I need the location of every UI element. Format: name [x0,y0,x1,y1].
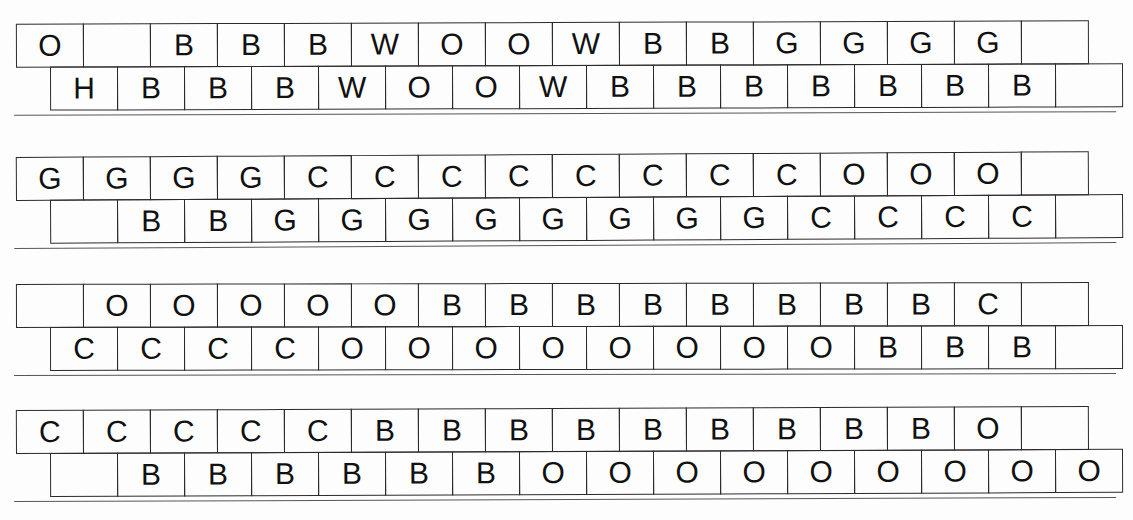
grid-cell-letter: O [519,451,587,495]
grid-cell-letter: G [251,198,319,242]
letter-band: GGGGCCCCCCCCOOO BBGGGGGGGGCCCC [0,154,1133,246]
grid-cell-letter: G [954,21,1022,65]
grid-cell-letter: B [318,452,386,496]
grid-cell-letter: O [83,284,151,328]
grid-cell-letter: G [83,156,151,200]
grid-cell-letter: O [988,449,1056,493]
grid-cell-letter: C [921,195,989,239]
grid-cell-letter: B [753,283,821,327]
grid-cell-letter: O [787,325,855,369]
grid-cell-letter: B [552,408,620,452]
grid-cell-empty [50,199,118,243]
grid-cell-letter: W [318,66,386,110]
grid-cell-empty [50,453,118,497]
grid-cell-letter: C [251,326,319,370]
grid-cell-letter: O [217,283,285,327]
grid-cell-letter: B [921,325,989,369]
grid-cell-letter: B [184,66,252,110]
grid-cell-letter: B [686,21,754,65]
band-bottom-row: BBGGGGGGGGCCCC [50,194,1122,244]
band-baseline [14,242,1116,249]
band-top-row: CCCCCBBBBBBBBBO [16,406,1088,454]
grid-cell-letter: B [753,407,821,451]
grid-cell-letter: B [988,325,1056,369]
grid-cell-empty [1055,325,1123,369]
grid-cell-letter: B [251,452,319,496]
grid-cell-letter: O [519,326,587,370]
grid-cell-letter: O [16,24,84,68]
grid-cell-letter: B [586,65,654,109]
grid-cell-letter: C [351,155,419,199]
grid-cell-letter: C [854,195,922,239]
grid-cell-letter: B [150,23,218,67]
grid-cell-letter: C [619,153,687,197]
grid-cell-empty [1055,63,1123,107]
grid-cell-letter: C [686,153,754,197]
band-top-row: GGGGCCCCCCCCOOO [16,151,1088,201]
grid-cell-letter: O [351,283,419,327]
grid-cell-letter: B [117,452,185,496]
grid-cell-empty [1021,282,1089,326]
grid-cell-letter: B [619,408,687,452]
band-top-row: OOOOOBBBBBBBBC [16,282,1088,328]
grid-cell-letter: O [720,326,788,370]
grid-cell-letter: B [854,64,922,108]
grid-cell-letter: B [619,22,687,66]
grid-cell-letter: B [686,283,754,327]
grid-cell-letter: C [184,327,252,371]
grid-cell-letter: W [552,22,620,66]
grid-cell-letter: B [184,199,252,243]
grid-cell-letter: B [619,283,687,327]
grid-cell-letter: O [954,406,1022,450]
letter-band: CCCCCBBBBBBBBBO BBBBBBOOOOOOOOO [0,408,1133,500]
grid-cell-letter: B [385,451,453,495]
grid-cell-letter: W [351,22,419,66]
grid-cell-letter: B [820,282,888,326]
grid-cell-letter: B [284,23,352,67]
grid-cell-letter: B [117,199,185,243]
scanned-chart-sheet: OBBBWOOWBBGGGG HBBBWOOWBBBBBBB GGGGCCCCC… [0,0,1133,520]
grid-cell-letter: G [519,197,587,241]
grid-cell-letter: O [452,326,520,370]
band-top-row: OBBBWOOWBBGGGG [16,20,1088,67]
grid-cell-letter: G [217,155,285,199]
grid-cell-letter: C [83,410,151,454]
grid-cell-letter: O [586,451,654,495]
grid-cell-letter: C [284,409,352,453]
letter-band: OBBBWOOWBBGGGG HBBBWOOWBBBBBBB [0,22,1133,114]
grid-cell-letter: G [16,157,84,201]
grid-cell-letter: O [418,22,486,66]
grid-cell-letter: O [385,65,453,109]
grid-cell-letter: O [485,22,553,66]
grid-cell-letter: B [418,283,486,327]
grid-cell-letter: B [452,451,520,495]
grid-cell-letter: O [1055,449,1123,493]
grid-cell-letter: C [16,410,84,454]
grid-cell-letter: H [50,66,118,110]
grid-cell-letter: G [720,196,788,240]
grid-cell-letter: O [452,65,520,109]
grid-cell-letter: C [485,154,553,198]
grid-cell-letter: O [921,449,989,493]
grid-cell-letter: O [318,326,386,370]
grid-cell-letter: B [887,407,955,451]
grid-cell-letter: C [150,409,218,453]
band-bottom-row: CCCCOOOOOOOOBBB [50,325,1122,371]
grid-cell-letter: B [686,407,754,451]
grid-cell-letter: G [753,21,821,65]
grid-cell-letter: G [385,198,453,242]
grid-cell-letter: O [586,326,654,370]
grid-cell-letter: G [653,196,721,240]
grid-cell-letter: G [887,21,955,65]
grid-cell-letter: B [787,64,855,108]
grid-cell-letter: O [954,152,1022,196]
grid-cell-letter: C [50,327,118,371]
grid-cell-letter: C [787,195,855,239]
grid-cell-letter: B [820,407,888,451]
grid-cell-empty [1055,194,1123,238]
grid-cell-letter: O [385,326,453,370]
grid-cell-empty [16,284,84,328]
grid-cell-letter: B [653,65,721,109]
grid-cell-letter: B [418,408,486,452]
grid-cell-letter: B [485,408,553,452]
